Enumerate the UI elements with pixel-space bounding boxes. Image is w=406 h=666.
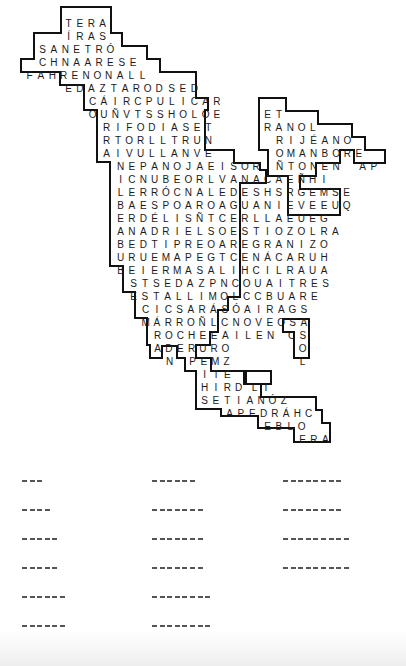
grid-row: TERA <box>63 13 108 26</box>
letter-slot <box>30 596 35 598</box>
answer-blank[interactable] <box>283 564 351 572</box>
answer-blank[interactable] <box>22 477 45 485</box>
grid-letter[interactable]: C <box>286 329 297 342</box>
letter-slot <box>22 625 27 627</box>
grid-letter[interactable]: A <box>152 342 163 355</box>
letter-slot <box>152 538 157 540</box>
grid-letter[interactable]: E <box>254 329 265 342</box>
answer-blank[interactable] <box>22 622 68 630</box>
letter-slot <box>198 567 203 569</box>
letter-slot <box>306 509 311 511</box>
letter-slot <box>283 538 288 540</box>
letter-slot <box>291 567 296 569</box>
letter-slot <box>329 567 334 569</box>
letter-slot <box>22 567 27 569</box>
grid-letter[interactable]: N <box>330 160 341 173</box>
answer-blank[interactable] <box>283 506 344 514</box>
grid-letter[interactable]: F <box>24 69 35 82</box>
letter-slot <box>167 480 172 482</box>
letter-slot <box>336 509 341 511</box>
grid-row: BEIERMASALIHCILRAUA <box>115 260 330 273</box>
answer-blank[interactable] <box>22 506 52 514</box>
grid-letter[interactable]: L <box>285 420 296 433</box>
grid-letter[interactable]: A <box>320 433 331 446</box>
grid-row: CICSARÁSÓAIRAGS <box>140 299 309 312</box>
grid-letter[interactable]: R <box>342 147 353 160</box>
answer-blank[interactable] <box>22 535 60 543</box>
grid-letter[interactable]: I <box>231 329 242 342</box>
grid-letter[interactable]: P <box>187 355 198 368</box>
grid-letter[interactable]: L <box>297 355 308 368</box>
grid-letter[interactable]: R <box>308 433 319 446</box>
grid-row: LI <box>249 377 272 390</box>
grid-letter[interactable]: A <box>101 147 112 160</box>
letter-slot <box>182 538 187 540</box>
letter-slot <box>198 538 203 540</box>
grid-letter[interactable]: A <box>357 160 368 173</box>
grid-letter[interactable]: E <box>63 82 74 95</box>
letter-slot <box>175 509 180 511</box>
grid-letter[interactable]: E <box>262 420 273 433</box>
letter-slot <box>298 567 303 569</box>
grid-row: O <box>297 338 308 351</box>
letter-slot <box>30 480 35 482</box>
grid-letter[interactable]: E <box>297 433 308 446</box>
answer-blank[interactable] <box>283 477 344 485</box>
grid-row: CÁIRCPULICAR <box>87 91 223 104</box>
answer-blank[interactable] <box>152 622 213 630</box>
letter-slot <box>329 509 334 511</box>
grid-letter[interactable]: E <box>210 394 221 407</box>
letter-slot <box>60 625 65 627</box>
answer-blank[interactable] <box>22 564 60 572</box>
grid-letter[interactable]: P <box>235 407 246 420</box>
letter-slot <box>321 538 326 540</box>
letter-slot <box>175 567 180 569</box>
letter-slot <box>37 509 42 511</box>
letter-slot <box>52 567 57 569</box>
letter-slot <box>37 596 42 598</box>
letter-slot <box>190 596 195 598</box>
letter-slot <box>198 509 203 511</box>
grid-letter[interactable]: U <box>330 199 341 212</box>
grid-row: ESTALLIMOLCCBUARE <box>128 286 320 299</box>
grid-letter[interactable]: A <box>35 69 46 82</box>
letter-slot <box>336 480 341 482</box>
grid-letter[interactable]: R <box>262 121 273 134</box>
answer-blank[interactable] <box>152 535 205 543</box>
grid-letter[interactable]: D <box>74 82 85 95</box>
grid-letter[interactable]: P <box>368 160 379 173</box>
grid-letter[interactable]: A <box>224 407 235 420</box>
grid-row: AIVULLANVE <box>101 143 214 156</box>
answer-blank[interactable] <box>152 477 198 485</box>
grid-letter[interactable]: M <box>140 316 151 329</box>
letter-slot <box>190 509 195 511</box>
letter-slot <box>329 480 334 482</box>
grid-letter[interactable]: L <box>242 329 253 342</box>
grid-letter[interactable]: E <box>128 290 139 303</box>
grid-letter[interactable]: Q <box>341 199 352 212</box>
grid-letter[interactable]: N <box>265 329 276 342</box>
grid-row: MÁRROÑLCNOVEOSA <box>140 312 309 325</box>
grid-row: BAESPOAROAGUANIEVEEUQ <box>115 195 352 208</box>
grid-row: ROCHEEAILEN <box>152 325 276 338</box>
grid-letter[interactable]: B <box>115 264 126 277</box>
grid-letter[interactable]: A <box>330 225 341 238</box>
grid-letter[interactable]: N <box>164 355 175 368</box>
answer-blank[interactable] <box>22 593 68 601</box>
letter-slot <box>52 596 57 598</box>
word-search-grid: TERAÍRASSANETRÓCHNAARESEFAHRENONALLEDAZT… <box>0 0 406 450</box>
answer-blank[interactable] <box>152 593 213 601</box>
grid-letter[interactable]: O <box>87 108 98 121</box>
grid-letter[interactable]: B <box>273 420 284 433</box>
grid-letter[interactable]: E <box>247 407 258 420</box>
answer-blank[interactable] <box>152 564 205 572</box>
grid-letter[interactable]: E <box>175 342 186 355</box>
grid-letter[interactable]: S <box>199 394 210 407</box>
grid-letter[interactable]: E <box>309 290 320 303</box>
grid-letter[interactable]: H <box>47 69 58 82</box>
grid-letter[interactable]: S <box>320 277 331 290</box>
letter-slot <box>22 509 27 511</box>
answer-blank[interactable] <box>283 535 351 543</box>
answer-blank[interactable] <box>152 506 205 514</box>
letter-slot <box>329 538 334 540</box>
